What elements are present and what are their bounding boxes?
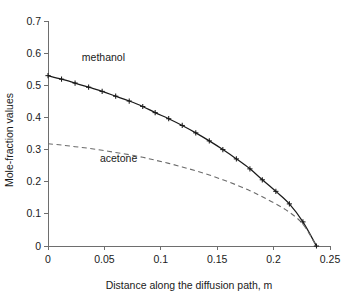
marker-methanol [72,80,77,85]
marker-methanol [86,85,91,90]
y-tick-label: 0.1 [26,207,41,219]
data-series [48,76,316,246]
y-tick-label: 0.4 [26,111,41,123]
mole-fraction-diffusion-chart: 00.10.20.30.40.50.60.700.050.10.150.20.2… [0,0,355,295]
marker-methanol [153,110,158,115]
marker-methanol [140,104,145,109]
y-axis-title: Mole-fraction values [3,93,15,187]
chart-container: 00.10.20.30.40.50.60.700.050.10.150.20.2… [0,0,355,295]
x-tick-label: 0.2 [266,253,281,265]
marker-methanol [45,73,50,78]
x-axis-title: Distance along the diffusion path, m [106,279,273,291]
axis-tick-labels: 00.10.20.30.40.50.60.700.050.10.150.20.2… [26,15,340,265]
marker-methanol [100,89,105,94]
y-tick-label: 0 [35,240,41,252]
series-line-acetone [48,144,316,246]
y-tick-label: 0.6 [26,47,41,59]
annotation-acetone: acetone [100,152,138,164]
marker-methanol [166,116,171,121]
x-tick-label: 0.25 [320,253,341,265]
x-tick-label: 0.15 [207,253,228,265]
marker-methanol [314,243,319,248]
y-tick-label: 0.7 [26,15,41,27]
marker-methanol [180,123,185,128]
y-tick-label: 0.3 [26,143,41,155]
data-point-markers [45,73,319,249]
y-tick-label: 0.5 [26,79,41,91]
marker-methanol [127,98,132,103]
x-tick-label: 0 [45,253,51,265]
series-annotations: methanolacetone [82,51,138,164]
annotation-methanol: methanol [82,51,125,63]
x-tick-label: 0.1 [153,253,168,265]
y-tick-label: 0.2 [26,175,41,187]
marker-methanol [113,94,118,99]
marker-methanol [193,130,198,135]
marker-methanol [59,77,64,82]
series-line-methanol [48,76,316,246]
x-tick-label: 0.05 [94,253,115,265]
